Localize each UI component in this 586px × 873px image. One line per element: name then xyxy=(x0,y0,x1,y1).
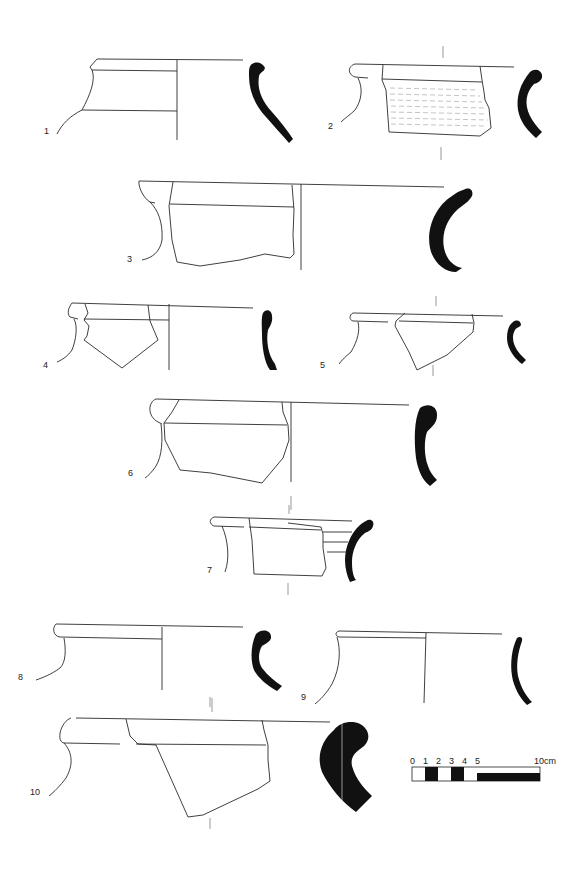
scale-tick-5: 5 xyxy=(475,756,480,766)
sherd-9: 9 xyxy=(301,631,532,705)
sherd-3-label: 3 xyxy=(127,254,132,264)
scale-tick-1: 1 xyxy=(423,756,428,766)
scale-tick-10cm: 10cm xyxy=(534,756,556,766)
sherd-6-label: 6 xyxy=(128,468,133,478)
sherd-3-profile xyxy=(429,188,472,272)
sherd-9-profile xyxy=(511,637,532,705)
sherd-4-profile xyxy=(262,310,277,370)
sherd-10: 10 xyxy=(30,697,372,829)
sherd-4-label: 4 xyxy=(43,360,48,370)
scale-tick-3: 3 xyxy=(449,756,454,766)
sherd-2-label: 2 xyxy=(328,121,333,131)
sherd-3: 3 xyxy=(127,181,472,272)
sherd-7: 7 xyxy=(207,505,373,595)
sherd-4: 4 xyxy=(43,303,277,370)
sherd-5: 5 xyxy=(320,296,526,376)
scale-bar: 0 1 2 3 4 5 10cm xyxy=(410,756,556,781)
sherd-1: 1 xyxy=(44,59,293,143)
pottery-plate: 1 2 3 xyxy=(0,0,586,873)
sherd-9-label: 9 xyxy=(301,692,306,702)
sherd-8: 8 xyxy=(18,624,282,712)
sherd-8-label: 8 xyxy=(18,672,23,682)
scale-tick-4: 4 xyxy=(462,756,467,766)
sherd-6: 6 xyxy=(128,399,437,510)
sherd-10-label: 10 xyxy=(30,787,40,797)
sherd-2: 2 xyxy=(328,46,542,160)
sherd-7-profile xyxy=(345,520,373,582)
sherd-1-profile xyxy=(249,63,293,143)
sherd-10-profile xyxy=(320,722,372,812)
sherd-1-label: 1 xyxy=(44,126,49,136)
texture-hatching xyxy=(390,88,488,126)
scale-tick-2: 2 xyxy=(436,756,441,766)
sherd-5-profile xyxy=(507,321,526,364)
scale-tick-0: 0 xyxy=(410,756,415,766)
sherd-2-profile xyxy=(518,70,543,138)
sherd-5-label: 5 xyxy=(320,360,325,370)
sherd-6-profile xyxy=(415,405,437,486)
sherd-7-label: 7 xyxy=(207,565,212,575)
sherd-8-profile xyxy=(252,631,282,691)
